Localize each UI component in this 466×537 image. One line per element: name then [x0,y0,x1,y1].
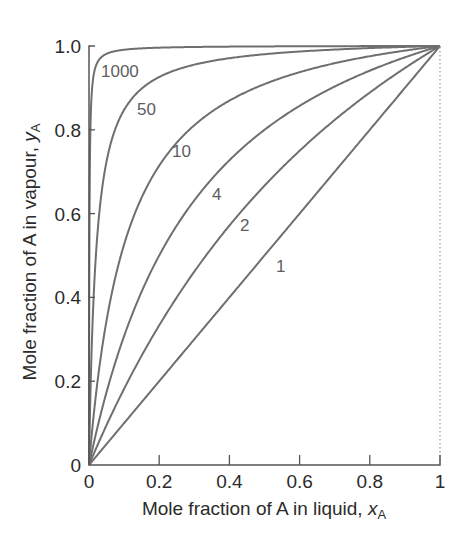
x-tick-label: 0.8 [357,471,383,492]
x-tick-label: 0.4 [216,471,243,492]
y-tick-label: 0.4 [55,287,82,308]
y-tick-label: 0.6 [55,204,81,225]
curve-label-2: 2 [240,216,249,235]
x-axis-ticks: 00.20.40.60.81 [84,455,446,492]
y-axis-label: Mole fraction of A in vapour, yA [19,123,43,380]
x-tick-label: 0.2 [146,471,172,492]
x-tick-label: 1 [435,471,446,492]
curve-labels-group: 12410501000 [101,62,285,276]
curve-label-1000: 1000 [101,62,139,81]
curve-label-50: 50 [137,100,156,119]
x-axis-label: Mole fraction of A in liquid, xA [142,498,387,522]
vapour-liquid-composition-chart: 12410501000 00.20.40.60.81 00.20.40.60.8… [0,0,466,537]
curve-label-1: 1 [276,257,285,276]
y-tick-label: 0.2 [55,371,81,392]
curve-label-4: 4 [212,185,221,204]
y-tick-label: 0.8 [55,120,81,141]
x-tick-label: 0.6 [286,471,312,492]
y-tick-label: 1.0 [55,36,81,57]
x-tick-label: 0 [84,471,95,492]
curve-label-10: 10 [172,142,191,161]
y-tick-label: 0 [70,455,81,476]
